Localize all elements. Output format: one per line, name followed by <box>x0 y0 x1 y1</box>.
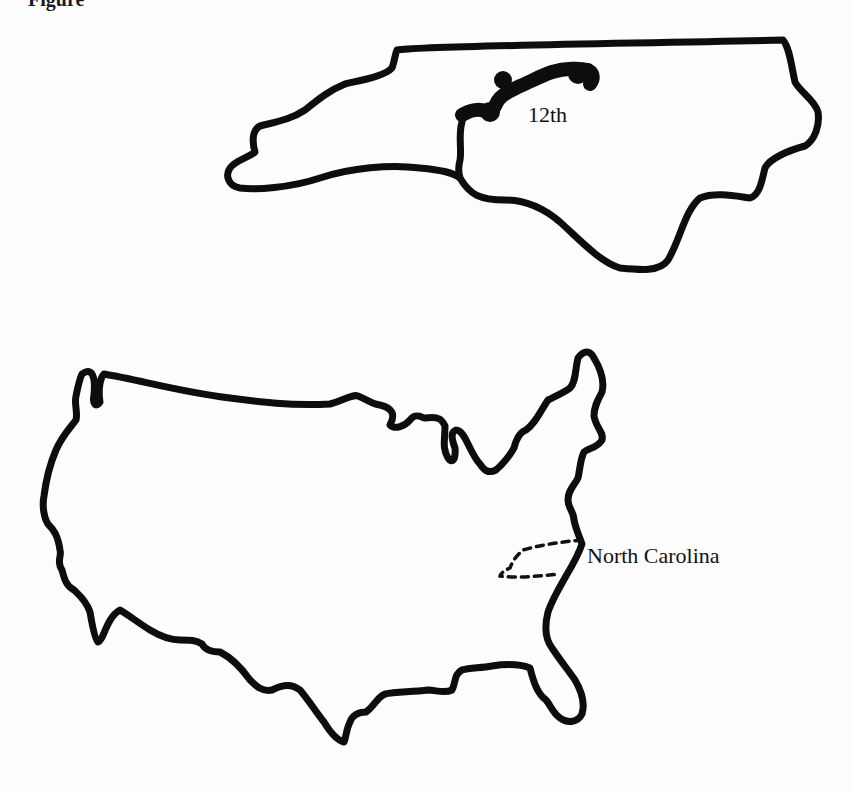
nc-state-map <box>228 40 819 270</box>
us-map <box>43 352 603 742</box>
nc-outline <box>228 40 819 270</box>
district-12th-blob <box>496 73 510 87</box>
district-12th-blob <box>482 104 498 120</box>
district-12th-blob <box>570 66 586 82</box>
us-outline <box>43 352 603 742</box>
nc-inner-line <box>459 122 463 178</box>
figure-page: Figure 12th North Carolina <box>0 0 851 794</box>
district-label: 12th <box>528 104 567 126</box>
maps-figure <box>0 0 851 794</box>
state-label: North Carolina <box>587 545 720 567</box>
